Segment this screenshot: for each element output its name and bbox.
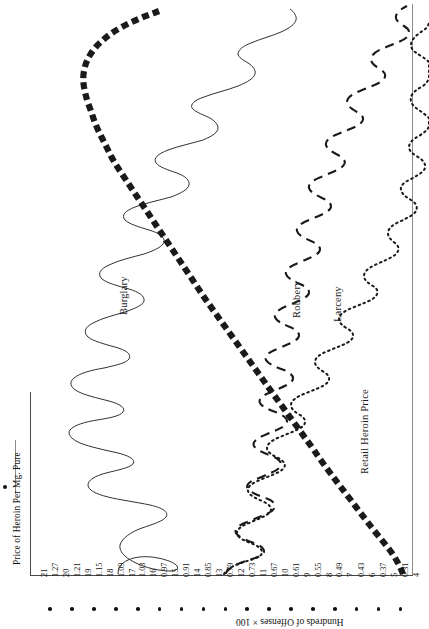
curve-robbery (225, 6, 409, 574)
axis-tick: 16 (139, 576, 150, 629)
axis-tick: 0.97 (150, 576, 161, 629)
axis-tick: 0.79 (216, 576, 227, 629)
figure-page: Burglary Robbery Larceny Retail Heroin P… (0, 0, 429, 629)
axis-tick: 0.43 (347, 576, 358, 629)
axis-tick-label: 0.67 (270, 563, 279, 577)
axis-tick-label: 0.79 (226, 563, 235, 577)
axis-tick-label: 0.55 (314, 563, 323, 577)
axis-tick: 13 (205, 576, 216, 629)
axis-tick: 18 (96, 576, 107, 629)
axis-tick: 6 (358, 576, 369, 629)
axis-tick-label: 0.31 (401, 563, 410, 577)
axis-tick: 5 (380, 576, 391, 629)
axis-tick: 1.21 (63, 576, 74, 629)
axis-tick: 1.15 (85, 576, 96, 629)
axis-tick-label: 0.61 (292, 563, 301, 577)
axis-tick-label: 0.73 (248, 563, 257, 577)
curve-label-retail-heroin-price: Retail Heroin Price (359, 389, 370, 474)
axis-tick: 1.03 (128, 576, 139, 629)
axis-tick: 0.31 (391, 576, 402, 629)
axis-tick: 0.85 (194, 576, 205, 629)
legend-label-heroin-price: Price of Heroin Per Mg. Pure (12, 452, 22, 565)
axis-tick-label: 0.85 (204, 563, 213, 577)
axis-tick: 20 (52, 576, 63, 629)
curve-label-larceny: Larceny (332, 286, 343, 322)
axis-tick-label: 4 (412, 573, 421, 577)
curve-larceny (224, 21, 429, 574)
axis-tick: 19 (74, 576, 85, 629)
axis-tick: 4 (402, 576, 413, 629)
axis-tick-label: 0.37 (379, 563, 388, 577)
curve-burglary (69, 9, 296, 574)
axis-tick: 0.91 (172, 576, 183, 629)
axis-tick: 1.27 (41, 576, 52, 629)
axis-title-offenses: Hundreds of Offenses × 100 (236, 617, 344, 627)
axis-tick-label: 0.49 (335, 563, 344, 577)
curve-retail-heroin-price (83, 11, 403, 574)
axis-tick-label: 1.27 (51, 563, 60, 577)
axis-tick-label: 1.03 (138, 563, 147, 577)
curve-label-robbery: Robbery (291, 280, 302, 318)
axis-tick: 0.37 (369, 576, 380, 629)
axis-tick-label: 0.43 (357, 563, 366, 577)
axis-tick: 21 (30, 576, 41, 629)
axis-tick-label: 0.97 (160, 563, 169, 577)
axis-tick: 15 (161, 576, 172, 629)
axis-tick: 14 (183, 576, 194, 629)
axis-tick-strip: 211.27201.21191.15181.09171.03160.97150.… (30, 576, 413, 629)
axis-tick-label: 1.15 (95, 563, 104, 577)
axis-tick: 1.09 (107, 576, 118, 629)
curve-label-burglary: Burglary (118, 276, 129, 315)
axis-tick-label: 1.21 (73, 563, 82, 577)
axis-tick-label: 1.09 (117, 563, 126, 577)
axis-tick: 17 (118, 576, 129, 629)
axis-tick-label: 0.91 (182, 563, 191, 577)
plot-curves (0, 0, 429, 629)
